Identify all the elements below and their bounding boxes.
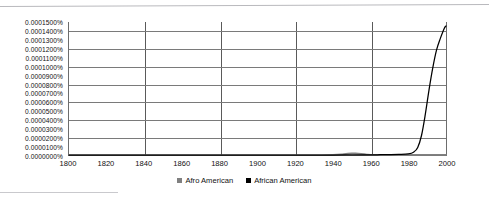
y-axis-tick-label: 0.0000200% (25, 135, 63, 142)
y-axis-tick-label: 0.0001000% (25, 63, 63, 70)
legend-label: Afro American (185, 176, 233, 185)
y-axis-tick-label: 0.0001300% (25, 36, 63, 43)
x-axis-tick-label: 1820 (97, 159, 114, 169)
page-bottom-rule (0, 192, 118, 193)
y-axis-tick-label: 0.0000700% (25, 90, 63, 97)
x-axis-tick-label: 1900 (249, 159, 266, 169)
legend-label: African American (254, 176, 311, 185)
x-axis-tick-label: 1800 (60, 159, 77, 169)
x-axis-tick-label: 1960 (363, 159, 380, 169)
legend-item[interactable]: African American (246, 176, 311, 185)
x-axis-tick-label: 1980 (401, 159, 418, 169)
plot-wrapper (68, 22, 447, 156)
y-axis-tick-label: 0.0000300% (25, 126, 63, 133)
y-axis-tick-label: 0.0000600% (25, 99, 63, 106)
y-axis-tick-label: 0.0000900% (25, 72, 63, 79)
x-axis-tick-label: 1840 (135, 159, 152, 169)
legend-swatch-icon (246, 178, 251, 183)
y-axis-tick-label: 0.0001500% (25, 19, 63, 26)
y-axis-tick-label: 0.0000000% (25, 153, 63, 160)
x-axis-tick-label: 1880 (211, 159, 228, 169)
y-axis-tick-label: 0.0001100% (25, 54, 63, 61)
ngram-line-chart: 0.0001500%0.0001400%0.0001300%0.0001200%… (0, 10, 489, 192)
legend-swatch-icon (177, 178, 182, 183)
legend-item[interactable]: Afro American (177, 176, 233, 185)
y-axis-tick-label: 0.0000400% (25, 117, 63, 124)
y-axis-labels: 0.0001500%0.0001400%0.0001300%0.0001200%… (0, 10, 66, 156)
series-line (69, 26, 446, 155)
x-axis-tick-label: 1940 (325, 159, 342, 169)
x-axis-tick-label: 1920 (287, 159, 304, 169)
x-axis-tick-label: 1860 (173, 159, 190, 169)
y-axis-tick-label: 0.0000800% (25, 81, 63, 88)
y-axis-tick-label: 0.0001400% (25, 27, 63, 34)
y-axis-tick-label: 0.0001200% (25, 45, 63, 52)
y-axis-tick-label: 0.0000500% (25, 108, 63, 115)
x-axis-tick-label: 2000 (439, 159, 456, 169)
page-top-rule (0, 4, 489, 7)
chart-legend: Afro AmericanAfrican American (0, 176, 489, 185)
x-axis-labels: 1800182018401860188019001920194019601980… (68, 159, 447, 173)
series-lines (69, 22, 446, 155)
y-axis-tick-label: 0.0000100% (25, 144, 63, 151)
plot-area (68, 22, 447, 156)
